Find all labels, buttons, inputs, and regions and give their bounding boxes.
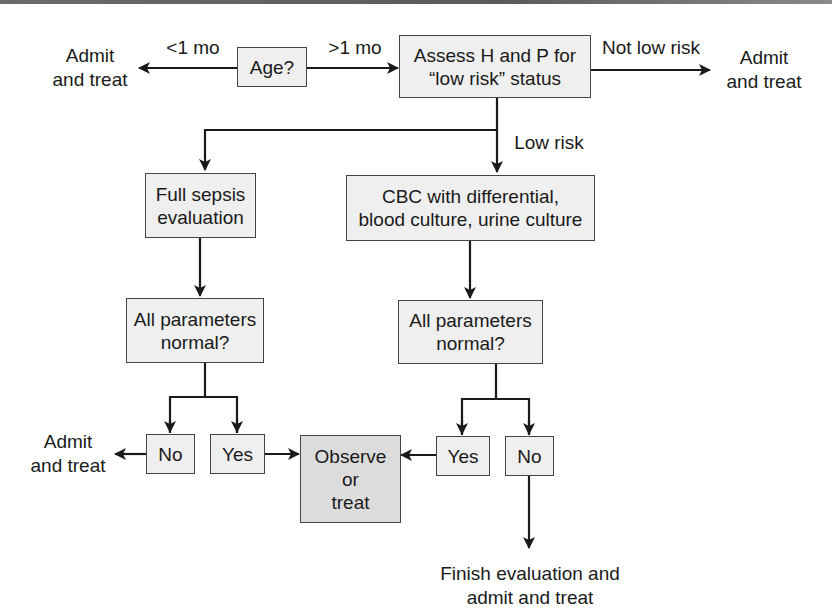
edge-label-over-1mo: >1 mo [320, 36, 390, 60]
node-full-sepsis-evaluation: Full sepsis evaluation [145, 173, 256, 238]
node-age: Age? [237, 47, 307, 87]
terminal-finish-evaluation: Finish evaluation and admit and treat [410, 562, 650, 608]
node-params-normal-right: All parameters normal? [398, 300, 543, 364]
edge-label-low-risk: Low risk [503, 131, 595, 155]
edge-label-under-1mo: <1 mo [158, 36, 228, 60]
terminal-admit-left-no: Admit and treat [18, 430, 118, 478]
edge-label-not-low-risk: Not low risk [592, 36, 710, 60]
node-params-normal-left: All parameters normal? [126, 298, 264, 363]
node-no-left: No [146, 434, 195, 474]
arrow-to-full-sepsis [205, 130, 497, 170]
node-observe-or-treat: Observe or treat [300, 435, 401, 523]
terminal-admit-not-low-risk: Admit and treat [712, 46, 816, 94]
node-yes-left: Yes [210, 434, 265, 474]
node-assess-low-risk: Assess H and P for “low risk” status [399, 35, 591, 98]
split-left-bar [170, 397, 237, 433]
terminal-admit-under-1mo: Admit and treat [40, 44, 140, 92]
node-cbc-cultures: CBC with differential, blood culture, ur… [346, 175, 595, 241]
node-no-right: No [505, 436, 554, 476]
split-right-bar [462, 399, 529, 435]
node-yes-right: Yes [436, 436, 490, 476]
